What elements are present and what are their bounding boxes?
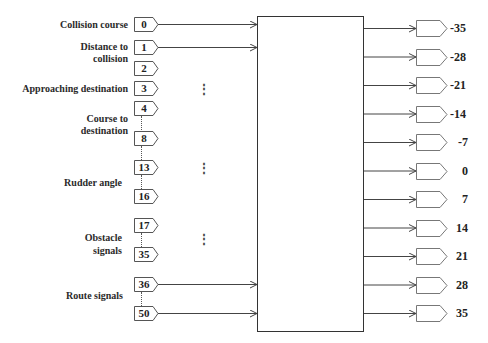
output-node-14: [416, 220, 456, 237]
output-node-0: [416, 163, 456, 180]
output-label: 35: [456, 306, 468, 320]
connection-arrows: [0, 0, 488, 343]
output-label: 14: [456, 221, 468, 235]
output-node-21: [416, 248, 456, 265]
output-label: -21: [450, 78, 466, 92]
output-node-minus-7: [416, 134, 456, 151]
output-label: 0: [462, 164, 468, 178]
output-label: -14: [450, 107, 466, 121]
output-label: -35: [450, 21, 466, 35]
output-label: -7: [458, 135, 468, 149]
output-label: -28: [450, 50, 466, 64]
output-node-7: [416, 191, 456, 208]
network-block: [257, 16, 364, 332]
output-node-35: [416, 305, 456, 322]
output-label: 21: [456, 249, 468, 263]
output-label: 28: [456, 278, 468, 292]
output-node-28: [416, 277, 456, 294]
output-label: 7: [462, 192, 468, 206]
